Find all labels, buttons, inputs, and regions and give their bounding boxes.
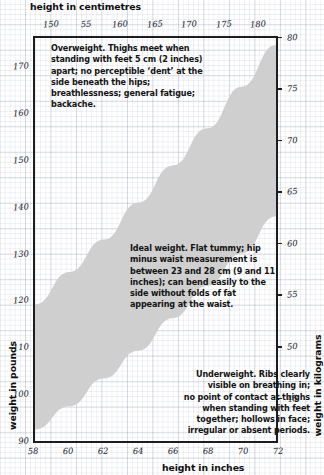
- left-tick-label: 130: [9, 248, 30, 259]
- left-tick-label: 160: [9, 108, 30, 119]
- top-tick-label: 150: [40, 18, 63, 30]
- left-tick-label: 140: [9, 201, 30, 212]
- bottom-tick-label: 72: [267, 445, 290, 457]
- right-tick-label: 50: [287, 340, 308, 351]
- right-axis-tickmark: [277, 346, 282, 348]
- right-tick-label: 65: [287, 186, 308, 197]
- bottom-axis-title: height in inches: [162, 462, 244, 473]
- right-axis-tickmark: [277, 191, 282, 193]
- right-tick-label: 80: [287, 31, 308, 42]
- bottom-tick-label: 68: [197, 445, 220, 457]
- left-tick-label: 100: [9, 388, 30, 399]
- top-tick-label: 160: [109, 18, 132, 30]
- left-tick-label: 120: [9, 295, 30, 306]
- right-tick-label: 55: [287, 289, 308, 300]
- top-tick-label: 180: [247, 18, 270, 30]
- right-tick-label: 75: [287, 82, 308, 93]
- bottom-tick-label: 64: [127, 445, 150, 457]
- right-tick-label: 45: [287, 392, 308, 403]
- note-underweight-line: when standing with feet: [150, 403, 310, 414]
- top-axis-title: height in centimetres: [30, 1, 141, 12]
- bottom-tick-label: 60: [57, 445, 80, 457]
- top-tick-label: 170: [178, 18, 201, 30]
- note-underweight-line: visible on breathing in;: [150, 380, 310, 391]
- right-tick-label: 60: [287, 237, 308, 248]
- left-tick-label: 150: [9, 154, 30, 165]
- right-axis-tickmark: [277, 88, 282, 90]
- note-overweight: Overweight. Thighs meet when standing wi…: [51, 43, 215, 111]
- bottom-tick-label: 58: [22, 445, 45, 457]
- right-axis-tickmark: [277, 140, 282, 142]
- right-tick-label: 70: [287, 134, 308, 145]
- bottom-tick-label: 62: [92, 445, 115, 457]
- bottom-tick-label: 70: [232, 445, 255, 457]
- note-underweight-line: irregular or absent periods.: [150, 425, 310, 436]
- top-tick-label: 55: [75, 18, 98, 30]
- top-tick-label: 175: [212, 18, 235, 30]
- bottom-tick-label: 66: [162, 445, 185, 457]
- top-tick-label: 165: [143, 18, 166, 30]
- left-tick-label: 90: [9, 435, 30, 446]
- note-ideal: Ideal weight. Flat tummy; hip minus wais…: [130, 243, 280, 311]
- note-underweight-line: Underweight. Ribs clearly: [150, 369, 310, 380]
- right-axis-title: weight in kilograms: [312, 334, 323, 438]
- left-tick-label: 110: [9, 341, 30, 352]
- note-underweight-line: together; hollows in face;: [150, 414, 310, 425]
- right-axis-tickmark: [277, 37, 282, 39]
- note-underweight: Underweight. Ribs clearlyvisible on brea…: [150, 369, 310, 437]
- left-tick-label: 170: [9, 61, 30, 72]
